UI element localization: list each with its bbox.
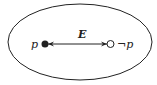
filled-node-p (42, 41, 49, 48)
label-p: p (31, 38, 38, 51)
diagram-canvas: p ¬p E (0, 0, 157, 85)
label-edge-e: E (77, 28, 87, 41)
open-node-not-p (107, 41, 114, 48)
label-not-p: ¬p (117, 38, 133, 51)
